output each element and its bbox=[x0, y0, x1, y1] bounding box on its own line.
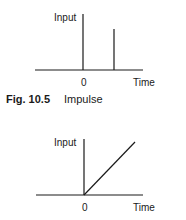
ramp-diagram bbox=[36, 139, 143, 195]
impulse-diagram bbox=[35, 14, 143, 70]
figure-caption: Fig. 10.5Impulse bbox=[6, 93, 103, 106]
ramp-line bbox=[84, 142, 135, 195]
caption-title: Impulse bbox=[64, 93, 103, 105]
ramp-x-label: Time bbox=[133, 202, 155, 214]
impulse-origin-label: 0 bbox=[81, 77, 87, 89]
impulse-y-label: Input bbox=[54, 12, 76, 24]
diagrams-canvas bbox=[0, 0, 186, 220]
impulse-x-label: Time bbox=[133, 77, 155, 89]
caption-number: Fig. 10.5 bbox=[6, 93, 50, 105]
ramp-y-label: Input bbox=[54, 137, 76, 149]
ramp-origin-label: 0 bbox=[82, 202, 88, 214]
